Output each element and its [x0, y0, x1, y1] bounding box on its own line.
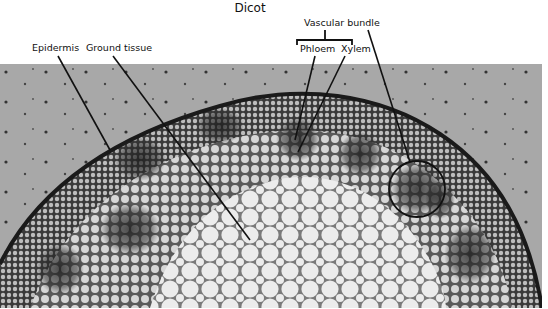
label-phloem: Phloem: [300, 43, 335, 54]
figure-title: Dicot: [0, 0, 548, 15]
label-ground-tissue: Ground tissue: [86, 42, 152, 53]
stem-cross-section-micrograph: [0, 64, 542, 308]
label-vascular-bundle: Vascular bundle: [304, 17, 380, 28]
figure-title-text: Dicot: [234, 1, 265, 15]
label-epidermis: Epidermis: [32, 42, 79, 53]
label-xylem: Xylem: [341, 43, 371, 54]
